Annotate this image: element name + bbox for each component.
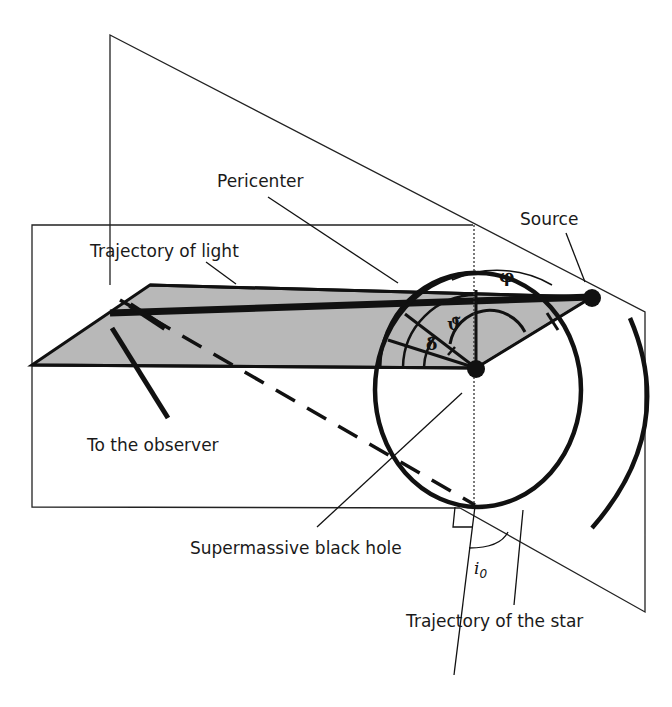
label-trajectory-of-star: Trajectory of the star: [405, 611, 583, 631]
label-to-observer: To the observer: [86, 435, 219, 455]
angle-phi: φ: [499, 266, 514, 286]
label-source: Source: [520, 209, 578, 229]
source-dot: [583, 289, 601, 307]
black-hole-dot: [467, 360, 485, 378]
label-trajectory-of-light: Trajectory of light: [89, 241, 239, 261]
star-projection-line: [454, 506, 475, 675]
angle-inclination: i0: [474, 558, 487, 581]
label-black-hole: Supermassive black hole: [190, 538, 402, 558]
outer-orbit-arc: [592, 318, 647, 528]
angle-theta: ϑ̃: [447, 314, 461, 334]
label-pericenter: Pericenter: [217, 171, 304, 191]
orbit-geometry-diagram: Pericenter Source Trajectory of light To…: [0, 0, 672, 707]
angle-delta: δ̃: [426, 334, 437, 354]
